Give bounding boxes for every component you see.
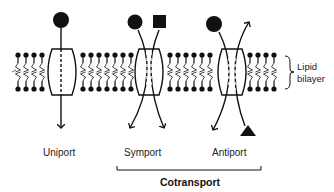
antiport-transporter xyxy=(206,16,256,136)
solute-circle-icon xyxy=(206,16,222,32)
label-line-1: Lipid xyxy=(297,61,325,73)
lipid-bilayer-label: Lipid bilayer xyxy=(297,61,325,85)
channel-protein xyxy=(218,49,246,95)
cotransport-label: Cotransport xyxy=(160,176,220,188)
antiport-label: Antiport xyxy=(212,147,246,158)
label-line-2: bilayer xyxy=(297,73,325,85)
transport-diagram xyxy=(0,0,334,192)
symport-transporter xyxy=(128,15,167,129)
solute-square-icon xyxy=(153,15,166,28)
lipid-segment-3 xyxy=(167,52,212,91)
cotransport-bracket xyxy=(117,166,261,170)
lipid-segment-4 xyxy=(247,52,276,91)
symport-label: Symport xyxy=(124,147,161,158)
lipid-segment-1 xyxy=(12,52,45,91)
solute-triangle-icon xyxy=(240,125,256,136)
solute-circle-icon xyxy=(53,12,69,28)
channel-protein xyxy=(135,49,163,95)
channel-protein xyxy=(48,49,76,95)
solute-circle-icon xyxy=(128,15,143,30)
brace-icon xyxy=(285,56,294,89)
uniport-transporter xyxy=(48,12,76,128)
lipid-segment-2 xyxy=(80,52,133,91)
uniport-label: Uniport xyxy=(43,147,75,158)
